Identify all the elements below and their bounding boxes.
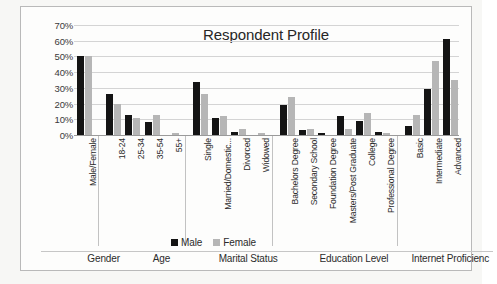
bar-group <box>402 25 421 135</box>
chart-legend: Male Female <box>171 237 256 248</box>
legend-entry-male: Male <box>171 237 202 248</box>
bar-group <box>209 25 228 135</box>
bar-male <box>405 126 412 135</box>
bar-male <box>280 105 287 135</box>
group-separator <box>98 136 99 246</box>
bar-group <box>228 25 247 135</box>
bar-male <box>212 118 219 135</box>
category-label: Masters/Post Graduate <box>348 138 358 223</box>
bar-female <box>220 116 227 135</box>
y-axis-tick-50%: 50% <box>55 51 73 62</box>
bar-male <box>193 82 200 135</box>
bar-male <box>125 115 132 135</box>
y-axis-tick-30%: 30% <box>55 82 73 93</box>
bar-female <box>85 56 92 135</box>
legend-label-female: Female <box>223 237 256 248</box>
bar-group <box>421 25 440 135</box>
group-labels: GenderAgeMarital StatusEducation LevelIn… <box>41 253 493 271</box>
category-label: Advanced <box>453 138 463 175</box>
bar-male <box>424 89 431 135</box>
category-labels: Male/Female18-2425-3435-5455+SingleMarri… <box>74 136 459 246</box>
group-separator <box>397 136 398 246</box>
bar-male <box>77 56 84 135</box>
legend-label-male: Male <box>181 237 202 248</box>
category-label: Professional Degree <box>386 138 396 213</box>
bar-female <box>364 113 371 135</box>
bar-group <box>277 25 296 135</box>
bar-group <box>372 25 391 135</box>
group-separator <box>185 136 186 246</box>
category-label: Widowed <box>261 138 271 172</box>
bar-group <box>334 25 353 135</box>
bar-group <box>122 25 141 135</box>
bar-group <box>161 25 180 135</box>
category-label: 35-54 <box>155 138 165 159</box>
bar-male <box>145 122 152 135</box>
bar-female <box>413 115 420 135</box>
bar-group <box>247 25 266 135</box>
bar-group <box>440 25 459 135</box>
group-label-rule <box>41 251 493 252</box>
category-label: Basic <box>415 138 425 158</box>
y-axis-tick-40%: 40% <box>55 67 73 78</box>
category-label: Secondary School <box>309 138 319 205</box>
category-label: 18-24 <box>117 138 127 159</box>
group-separator <box>272 136 273 246</box>
bar-female <box>432 61 439 135</box>
bar-female <box>114 104 121 135</box>
bar-group <box>296 25 315 135</box>
y-axis-tick-20%: 20% <box>55 98 73 109</box>
bar-female <box>288 97 295 135</box>
legend-swatch-male-icon <box>171 239 178 246</box>
category-label: Bachelors Degree <box>290 138 300 204</box>
legend-swatch-female-icon <box>213 239 220 246</box>
category-label: Married/Domestic... <box>223 138 233 210</box>
category-label: Male/Female <box>88 138 98 186</box>
bar-female <box>133 118 140 135</box>
category-label: 25-34 <box>136 138 146 159</box>
y-axis-tick-70%: 70% <box>55 20 73 31</box>
bars-layer <box>74 25 459 135</box>
chart-frame: Respondent Profile 0%10%20%30%40%50%60%7… <box>20 6 472 271</box>
bar-male <box>443 39 450 135</box>
y-axis-tick-10%: 10% <box>55 114 73 125</box>
category-label: 55+ <box>174 138 184 152</box>
y-axis: 0%10%20%30%40%50%60%70% <box>41 25 73 135</box>
y-axis-tick-0%: 0% <box>60 130 73 141</box>
category-label: Divorced <box>242 138 252 171</box>
bar-male <box>337 116 344 135</box>
bar-female <box>201 94 208 135</box>
bar-female <box>153 115 160 135</box>
category-label: College <box>367 138 377 166</box>
bar-male <box>106 94 113 135</box>
bar-female <box>451 80 458 135</box>
group-label: Internet Proficienc <box>380 253 497 264</box>
bar-group <box>142 25 161 135</box>
category-label: Intermediate <box>434 138 444 184</box>
bar-group <box>315 25 334 135</box>
bar-group <box>74 25 93 135</box>
bar-group <box>190 25 209 135</box>
bar-group <box>103 25 122 135</box>
legend-entry-female: Female <box>213 237 256 248</box>
category-label: Single <box>203 138 213 161</box>
category-label: Foundation Degree <box>328 138 338 209</box>
bar-male <box>356 121 363 135</box>
y-axis-tick-60%: 60% <box>55 35 73 46</box>
bar-group <box>353 25 372 135</box>
